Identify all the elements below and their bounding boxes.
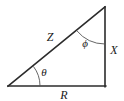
label-theta: θ [41,66,47,78]
label-R: R [59,88,68,101]
theta-angle-arc [33,66,40,86]
triangle-figure: Z X R θ ϕ [0,0,124,101]
label-phi: ϕ [82,37,88,49]
label-Z: Z [47,30,54,44]
triangle-diagram-canvas: Z X R θ ϕ [0,0,124,101]
hypotenuse-Z [8,7,105,86]
label-X: X [109,43,118,57]
phi-angle-arc [77,31,105,44]
